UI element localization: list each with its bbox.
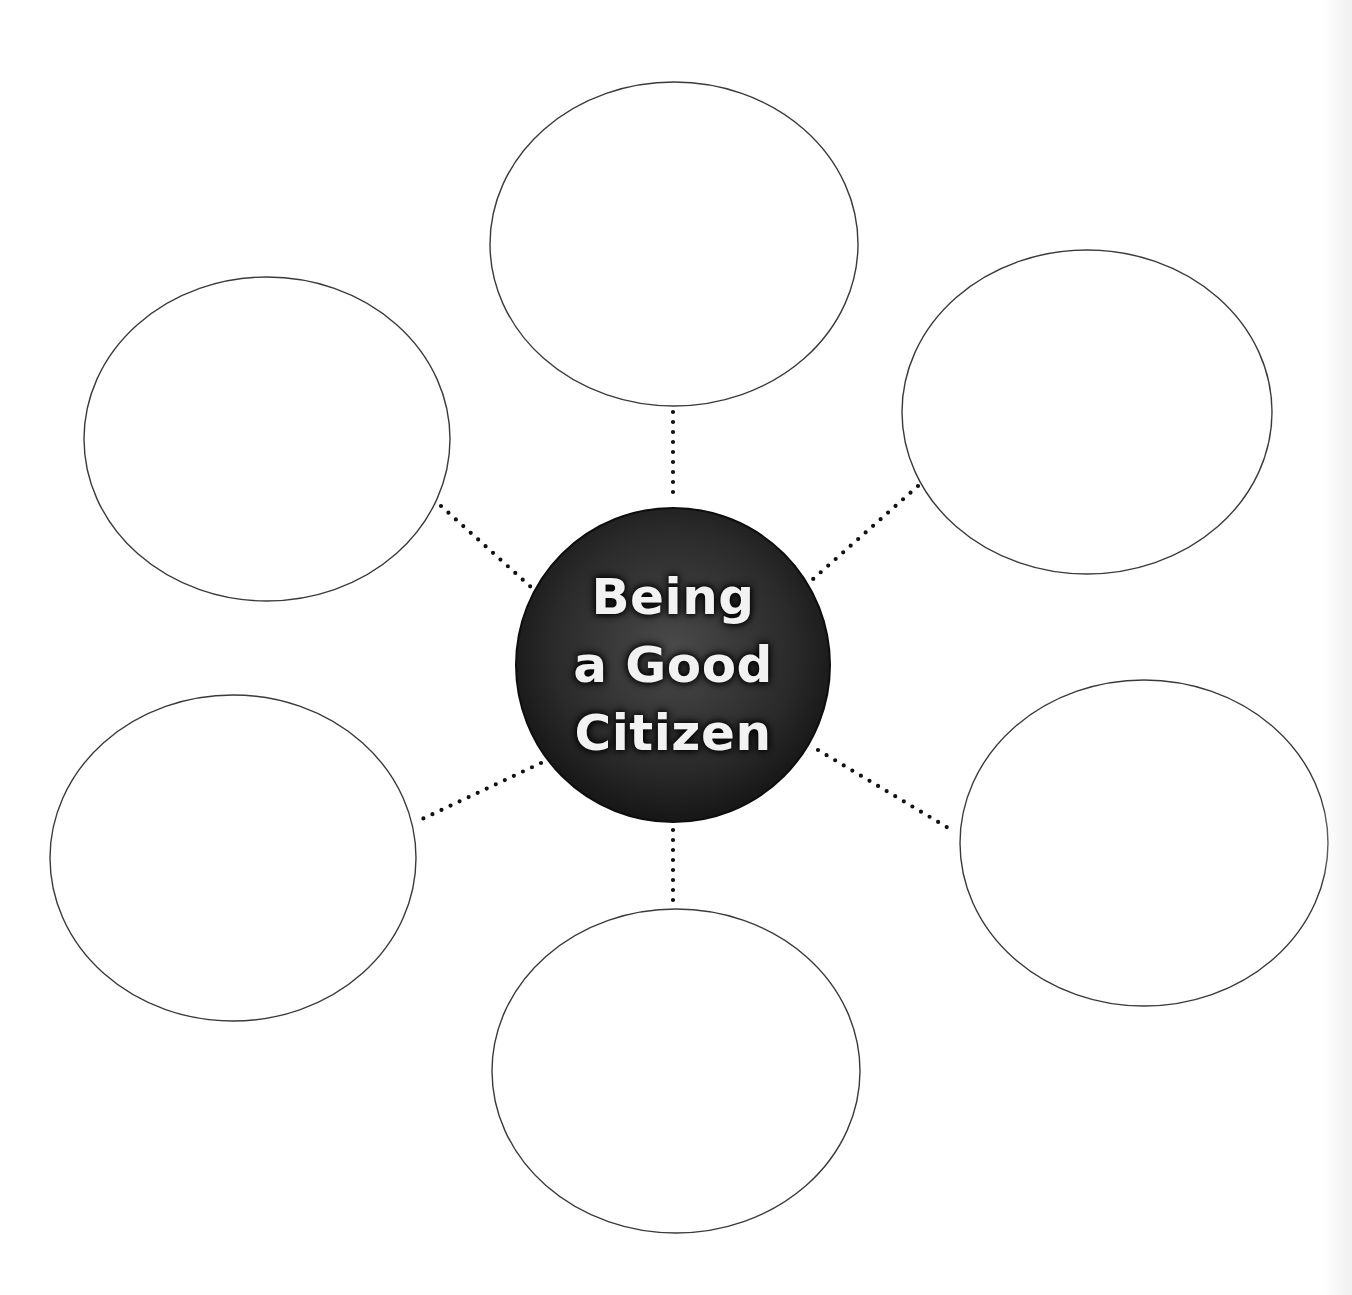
bubble-upper-right[interactable] bbox=[902, 250, 1272, 574]
bubble-bottom[interactable] bbox=[492, 909, 860, 1233]
center-title-line-3: Citizen bbox=[575, 699, 772, 767]
bubble-upper-left[interactable] bbox=[84, 277, 450, 601]
center-title-line-2: a Good bbox=[573, 631, 773, 699]
connector-lower-right bbox=[818, 750, 955, 832]
bubble-lower-left[interactable] bbox=[50, 695, 416, 1021]
bubble-top[interactable] bbox=[490, 82, 858, 406]
center-title: Being a Good Citizen bbox=[516, 508, 830, 822]
center-title-line-1: Being bbox=[591, 563, 754, 631]
bubble-lower-right[interactable] bbox=[960, 680, 1328, 1006]
